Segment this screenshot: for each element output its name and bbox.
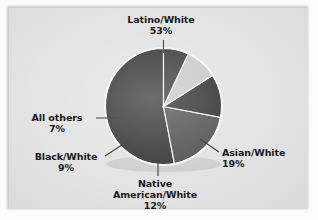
pie-label-all-others: All others 7% xyxy=(18,112,96,134)
pie-label-black-white-value: 9% xyxy=(18,162,114,173)
pie-label-native-american-white: Native American/White 12% xyxy=(96,178,214,211)
pie-label-all-others-value: 7% xyxy=(18,123,96,134)
pie-label-asian-white-value: 19% xyxy=(222,158,312,169)
pie-label-black-white: Black/White 9% xyxy=(18,151,114,173)
pie-slices-visible xyxy=(105,48,221,164)
pie-label-latino-white-value: 53% xyxy=(102,25,220,36)
pie-label-black-white-text: Black/White xyxy=(35,151,98,162)
pie-label-native-american-white-text-line2: American/White xyxy=(96,189,214,200)
pie-label-native-american-white-value: 12% xyxy=(96,200,214,211)
pie-label-asian-white: Asian/White 19% xyxy=(222,147,312,169)
pie-chart-figure: Latino/White 53% Asian/White 19% Native … xyxy=(0,0,318,220)
pie-label-native-american-white-text-line1: Native xyxy=(138,178,172,189)
pie-label-latino-white-text: Latino/White xyxy=(127,14,194,25)
pie-chart-screenshot: Latino/White 53% Asian/White 19% Native … xyxy=(0,0,318,220)
pie-label-asian-white-text: Asian/White xyxy=(222,147,285,158)
pie-label-all-others-text: All others xyxy=(32,112,83,123)
pie-label-latino-white: Latino/White 53% xyxy=(102,14,220,36)
